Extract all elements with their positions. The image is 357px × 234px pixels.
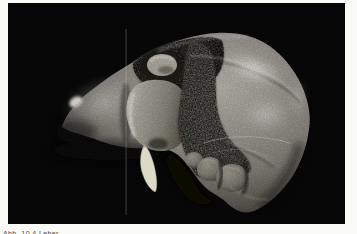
liver-render: [8, 3, 345, 224]
figure-caption: Abb. 10.4 Leber: [3, 229, 59, 234]
artifact-line: [126, 29, 127, 215]
figure-viewport: [8, 3, 345, 224]
page: Abb. 10.4 Leber: [0, 0, 357, 234]
